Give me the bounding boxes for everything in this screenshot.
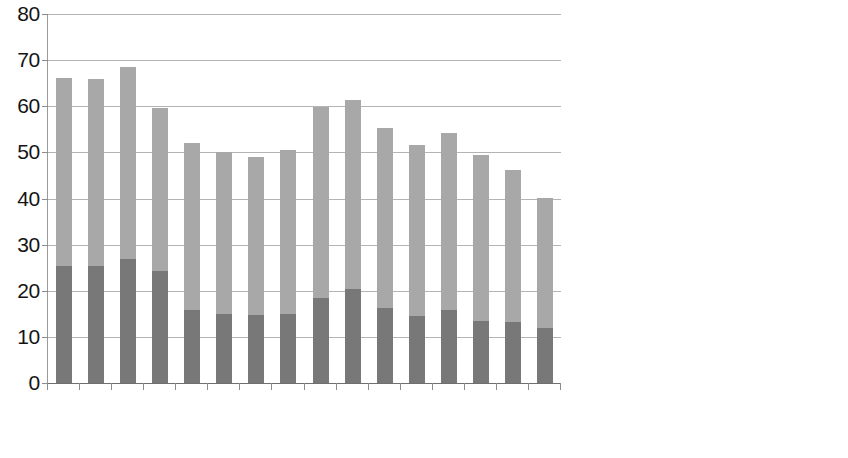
plot-area: [47, 14, 561, 383]
x-axis-tick-mark: [400, 383, 401, 390]
bar-segment-7-days[interactable]: [280, 314, 296, 383]
bar-segment-28-days[interactable]: [473, 155, 489, 321]
x-axis-tick-mark: [79, 383, 80, 390]
y-axis-tick-label-group: 80706050403020100: [0, 0, 40, 458]
y-axis-tick-label: 50: [0, 141, 40, 162]
y-axis-tick-label: 20: [0, 280, 40, 301]
x-axis-tick-mark: [175, 383, 176, 390]
bar-segment-28-days[interactable]: [537, 198, 553, 328]
x-axis-tick-mark: [528, 383, 529, 390]
x-axis-tick-mark: [143, 383, 144, 390]
bar-segment-28-days[interactable]: [248, 157, 264, 315]
bar-segment-28-days[interactable]: [441, 133, 457, 310]
bar-group[interactable]: [152, 14, 168, 383]
x-axis-tick-mark: [496, 383, 497, 390]
bar-segment-7-days[interactable]: [505, 322, 521, 383]
x-axis-tick-mark: [336, 383, 337, 390]
bar-group[interactable]: [377, 14, 393, 383]
bars-layer: [48, 14, 561, 383]
bar-segment-28-days[interactable]: [409, 145, 425, 316]
y-axis-tick-label: 10: [0, 326, 40, 347]
bar-segment-28-days[interactable]: [377, 128, 393, 308]
bar-segment-7-days[interactable]: [120, 259, 136, 383]
bar-group[interactable]: [441, 14, 457, 383]
bar-segment-7-days[interactable]: [313, 298, 329, 383]
bar-group[interactable]: [473, 14, 489, 383]
bar-segment-7-days[interactable]: [184, 310, 200, 383]
bar-segment-28-days[interactable]: [88, 79, 104, 266]
bar-segment-28-days[interactable]: [313, 107, 329, 298]
y-axis-tick-label: 80: [0, 3, 40, 24]
x-axis-tick-mark: [432, 383, 433, 390]
bar-segment-7-days[interactable]: [88, 266, 104, 383]
y-axis-tick-label: 70: [0, 49, 40, 70]
x-axis-tick-mark: [111, 383, 112, 390]
bar-segment-28-days[interactable]: [184, 143, 200, 310]
bar-group[interactable]: [184, 14, 200, 383]
y-axis-tick-label: 40: [0, 188, 40, 209]
bar-group[interactable]: [313, 14, 329, 383]
bar-segment-7-days[interactable]: [441, 310, 457, 383]
bar-group[interactable]: [409, 14, 425, 383]
x-axis-tick-mark: [47, 383, 48, 390]
bar-segment-28-days[interactable]: [345, 100, 361, 289]
bar-segment-7-days[interactable]: [152, 271, 168, 383]
x-axis-tick-mark: [464, 383, 465, 390]
x-axis-tick-marks: [47, 383, 560, 391]
bar-segment-7-days[interactable]: [216, 314, 232, 383]
y-axis-tick-label: 30: [0, 234, 40, 255]
x-axis-tick-mark: [271, 383, 272, 390]
bar-segment-7-days[interactable]: [248, 315, 264, 383]
bar-group[interactable]: [345, 14, 361, 383]
bar-group[interactable]: [505, 14, 521, 383]
bar-segment-28-days[interactable]: [152, 108, 168, 271]
bar-group[interactable]: [280, 14, 296, 383]
y-axis-tick-label: 60: [0, 95, 40, 116]
bar-segment-7-days[interactable]: [409, 316, 425, 383]
bar-segment-28-days[interactable]: [120, 67, 136, 259]
bar-segment-28-days[interactable]: [56, 78, 72, 266]
x-axis-tick-mark: [207, 383, 208, 390]
bar-segment-7-days[interactable]: [345, 289, 361, 383]
bar-segment-7-days[interactable]: [473, 321, 489, 383]
x-axis-tick-mark: [239, 383, 240, 390]
bar-group[interactable]: [88, 14, 104, 383]
x-axis-tick-mark: [560, 383, 561, 390]
x-axis-tick-mark: [304, 383, 305, 390]
bar-group[interactable]: [537, 14, 553, 383]
x-axis-tick-label-group: [47, 391, 560, 458]
bar-group[interactable]: [120, 14, 136, 383]
x-axis-tick-mark: [368, 383, 369, 390]
bar-group[interactable]: [216, 14, 232, 383]
bar-group[interactable]: [248, 14, 264, 383]
bar-segment-28-days[interactable]: [280, 150, 296, 314]
bar-segment-28-days[interactable]: [216, 152, 232, 314]
bar-segment-7-days[interactable]: [56, 266, 72, 383]
bar-group[interactable]: [56, 14, 72, 383]
y-axis-tick-label: 0: [0, 372, 40, 393]
bar-segment-7-days[interactable]: [377, 308, 393, 383]
compressive-strength-bar-chart: 80706050403020100: [0, 0, 848, 458]
bar-segment-28-days[interactable]: [505, 170, 521, 322]
bar-segment-7-days[interactable]: [537, 328, 553, 383]
